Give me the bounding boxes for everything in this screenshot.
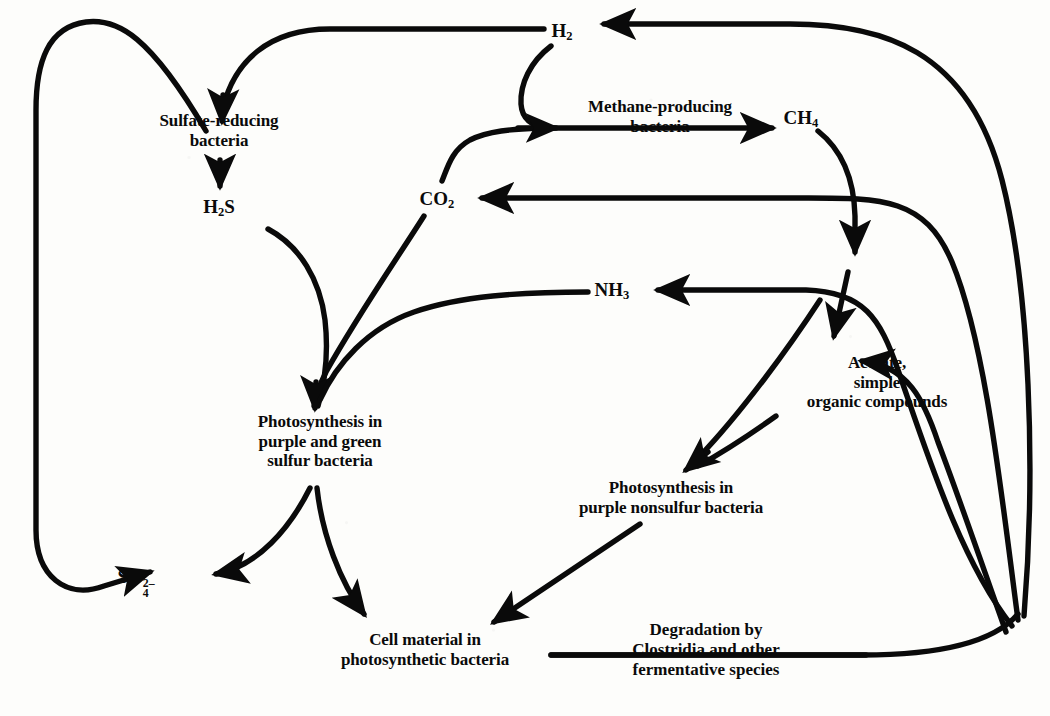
edge-h2-to-sulfate-reducing [223, 29, 544, 108]
degradation-line3: fermentative species [633, 660, 780, 679]
edge-acetate-to-nonsulfur [698, 416, 776, 466]
edge-label-degradation-clostridia: Degradation byClostridia and otherfermen… [632, 620, 779, 680]
edge-nh3area-to-nonsulfur [700, 300, 820, 456]
degradation-line2-rest: and other [705, 640, 780, 659]
edge-h2-to-methanogens [521, 46, 551, 128]
edge-so4-to-sulfate-reducing [36, 21, 206, 589]
node-co2-label: CO2 [420, 188, 455, 209]
edge-nh3-to-green-sulfur [320, 292, 588, 400]
node-acetate: Acetate, simple organic compounds [807, 353, 947, 412]
node-h2-label: H2 [551, 20, 572, 41]
edge-green-sulfur-to-so4 [216, 488, 310, 574]
edge-label-methane-producing-bacteria: Methane-producing bacteria [588, 97, 732, 137]
node-nonsulfur-photosynthesis: Photosynthesis in purple nonsulfur bacte… [579, 478, 763, 517]
node-co2: CO2 [420, 188, 455, 212]
node-ch4: CH4 [784, 107, 819, 131]
edge-nonsulfur-to-cell-material [494, 524, 640, 622]
edge-ch4-to-acetate-hub [834, 272, 848, 336]
node-so4: SO2–4 [117, 566, 154, 588]
node-ch4-label: CH4 [784, 107, 819, 128]
edge-arrowhead-into-green-sulfur [315, 382, 316, 408]
node-nh3: NH3 [595, 279, 630, 303]
diagram-canvas: H2 CH4 CO2 H2S NH3 SO2–4 Sulfate-reducin… [0, 0, 1050, 716]
edge-green-sulfur-to-cell-material [317, 488, 364, 614]
edge-co2-to-methanogens [442, 128, 540, 181]
node-h2s-label: H2S [203, 196, 235, 217]
node-so4-label: SO2–4 [117, 566, 154, 587]
degradation-clostridia-italic: Clostridia [632, 640, 705, 659]
node-cell-material: Cell material in photosynthetic bacteria [341, 630, 509, 669]
edge-h2s-to-green-sulfur [268, 229, 327, 406]
node-nh3-label: NH3 [595, 279, 630, 300]
node-green-sulfur-photosynthesis: Photosynthesis in purple and green sulfu… [258, 412, 382, 471]
node-h2s: H2S [203, 196, 235, 220]
edge-ch4-down-curve [818, 131, 855, 252]
degradation-line1: Degradation by [650, 620, 763, 639]
edge-degradation-to-hub [551, 614, 1018, 655]
node-h2: H2 [551, 20, 572, 44]
node-sulfate-reducing-bacteria: Sulfate-reducing bacteria [160, 111, 279, 150]
